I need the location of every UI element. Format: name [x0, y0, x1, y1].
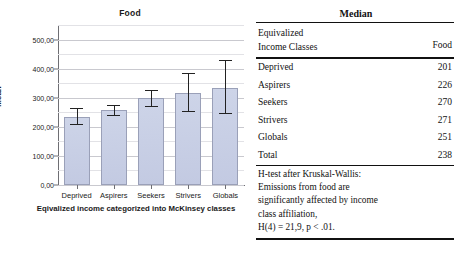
- table-row: Deprived201: [258, 60, 454, 79]
- col-header-line2: Income Classes: [258, 40, 317, 54]
- y-axis-tick-mark: [54, 126, 58, 127]
- table-row: Globals251: [258, 130, 454, 149]
- x-axis-tick-label: Deprived: [62, 191, 92, 200]
- error-bar-cap-upper: [219, 60, 232, 61]
- table-row-label: Strivers: [258, 115, 288, 125]
- y-axis-tick-label: 200,00: [33, 123, 54, 130]
- error-bar-cap-lower: [182, 111, 195, 112]
- footnote-line: Emissions from food are: [258, 181, 454, 194]
- bar: [138, 98, 164, 185]
- table-rule-top: [256, 22, 454, 23]
- table-row-label: Globals: [258, 132, 288, 142]
- table-row-value: 201: [438, 62, 452, 72]
- table-column-header-left: Equivalized Income Classes: [258, 26, 317, 54]
- table-top-header: Median: [254, 8, 458, 19]
- x-axis-tick-label: Aspirers: [100, 191, 128, 200]
- table-column-header: Equivalized Income Classes Food: [258, 26, 454, 56]
- y-axis-tick-mark: [54, 185, 58, 186]
- col-header-line1: Equivalized: [258, 26, 317, 40]
- bar: [64, 117, 90, 185]
- table-rule-body-bottom: [256, 165, 454, 166]
- x-axis-tick-label: Strivers: [175, 191, 200, 200]
- footnote-line: H(4) = 21,9, p < .01.: [258, 221, 454, 234]
- y-axis-label: Mean: [0, 86, 3, 106]
- gridline: [58, 54, 244, 55]
- gridline: [58, 25, 244, 26]
- table-rule-bottom: [256, 238, 454, 240]
- error-bar-cap-lower: [145, 106, 158, 107]
- footnote-line: class affiliation,: [258, 208, 454, 221]
- footnote-line: H-test after Kruskal-Wallis:: [258, 168, 454, 181]
- error-bar: [114, 105, 115, 115]
- table-row-label: Seekers: [258, 97, 288, 107]
- error-bar-cap-upper: [107, 105, 120, 106]
- table-row: Strivers271: [258, 113, 454, 132]
- gridline: [58, 83, 244, 84]
- x-axis-tick-mark: [188, 185, 189, 189]
- error-bar: [225, 60, 226, 113]
- table-row-value: 251: [438, 132, 452, 142]
- x-axis-label: Eqivalized income categorized into McKin…: [28, 205, 244, 214]
- chart-panel: Food Mean 0,00100,00200,00300,00400,0050…: [0, 0, 250, 256]
- error-bar-cap-lower: [70, 124, 83, 125]
- error-bar-cap-upper: [145, 90, 158, 91]
- error-bar: [188, 73, 189, 111]
- table-row-value: 270: [438, 97, 452, 107]
- table-row-value: 226: [438, 80, 452, 90]
- y-axis-tick-label: 400,00: [33, 65, 54, 72]
- table-row-value: 271: [438, 115, 452, 125]
- y-axis-tick-label: 0,00: [40, 182, 54, 189]
- table-column-header-right: Food: [432, 40, 452, 50]
- bar-fill: [65, 118, 89, 184]
- footnote-line: significantly affected by income: [258, 194, 454, 207]
- bar-fill: [102, 111, 126, 184]
- table-rule-header-bottom: [256, 57, 454, 59]
- x-axis-tick-mark: [77, 185, 78, 189]
- error-bar-cap-upper: [70, 108, 83, 109]
- y-axis-tick-label: 100,00: [33, 152, 54, 159]
- plot-area: 0,00100,00200,00300,00400,00500,00Depriv…: [58, 25, 244, 185]
- x-axis-tick-mark: [225, 185, 226, 189]
- table-row-label: Deprived: [258, 62, 293, 72]
- y-axis-tick-label: 300,00: [33, 94, 54, 101]
- table-row-label: Total: [258, 150, 277, 160]
- bar: [101, 110, 127, 185]
- table-row: Seekers270: [258, 95, 454, 114]
- error-bar-cap-upper: [182, 73, 195, 74]
- error-bar: [151, 90, 152, 105]
- error-bar-cap-lower: [219, 113, 232, 114]
- y-axis-tick-mark: [54, 39, 58, 40]
- table-row-label: Aspirers: [258, 80, 290, 90]
- y-axis-tick-mark: [54, 68, 58, 69]
- x-axis-tick-label: Globals: [213, 191, 238, 200]
- y-axis-tick-mark: [54, 155, 58, 156]
- bar-fill: [139, 99, 163, 184]
- x-axis-tick-mark: [114, 185, 115, 189]
- table-row-value: 238: [438, 150, 452, 160]
- gridline: [58, 40, 244, 41]
- error-bar-cap-lower: [107, 115, 120, 116]
- y-axis-tick-label: 500,00: [33, 36, 54, 43]
- median-table-panel: Median Equivalized Income Classes Food D…: [254, 0, 458, 256]
- table-row: Aspirers226: [258, 78, 454, 97]
- gridline: [58, 69, 244, 70]
- x-axis-tick-mark: [151, 185, 152, 189]
- x-axis-tick-label: Seekers: [137, 191, 165, 200]
- y-axis-tick-mark: [54, 97, 58, 98]
- error-bar: [77, 108, 78, 123]
- chart-title: Food: [30, 8, 230, 18]
- table-footnote: H-test after Kruskal-Wallis:Emissions fr…: [258, 168, 454, 234]
